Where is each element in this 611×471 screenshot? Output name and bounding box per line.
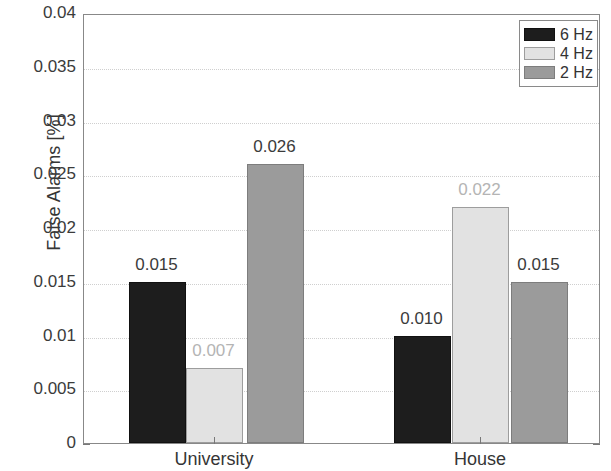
- legend-swatch-icon-1: [524, 47, 555, 60]
- bar-university-4hz[interactable]: [186, 368, 243, 443]
- y-tick-label: 0.025: [3, 164, 76, 184]
- legend-item-1[interactable]: 4 Hz: [524, 44, 593, 63]
- legend-item-2[interactable]: 2 Hz: [524, 63, 593, 82]
- x-tick-mark: [214, 437, 215, 444]
- bar-value-label: 0.010: [385, 309, 458, 329]
- legend-swatch-icon-0: [524, 28, 555, 41]
- y-tick-label: 0.04: [3, 3, 76, 23]
- bar-university-6hz[interactable]: [129, 282, 186, 443]
- bar-value-label: 0.015: [120, 255, 193, 275]
- y-tick-label: 0.03: [3, 111, 76, 131]
- y-tick-label: 0.005: [3, 379, 76, 399]
- bar-value-label: 0.026: [238, 137, 311, 157]
- chart-legend[interactable]: 6 Hz 4 Hz 2 Hz: [519, 20, 598, 87]
- legend-label-2: 2 Hz: [560, 64, 593, 82]
- y-tick-label: 0.02: [3, 218, 76, 238]
- legend-item-0[interactable]: 6 Hz: [524, 25, 593, 44]
- bar-value-label: 0.007: [177, 341, 250, 361]
- bar-house-4hz[interactable]: [452, 207, 509, 444]
- gridline: [84, 230, 599, 231]
- gridline: [84, 123, 599, 124]
- legend-label-1: 4 Hz: [560, 45, 593, 63]
- bar-house-2hz[interactable]: [511, 282, 568, 443]
- y-tick-label: 0.01: [3, 326, 76, 346]
- bar-house-6hz[interactable]: [394, 336, 451, 444]
- bar-value-label: 0.022: [443, 180, 516, 200]
- legend-swatch-icon-2: [524, 66, 555, 79]
- y-tick-mark: [83, 444, 90, 445]
- bar-value-label: 0.015: [502, 255, 575, 275]
- y-tick-label: 0.015: [3, 272, 76, 292]
- legend-label-0: 6 Hz: [560, 26, 593, 44]
- bar-chart-figure: False Alarms [%] 00.0050.010.0150.020.02…: [0, 0, 611, 471]
- y-tick-label: 0.035: [3, 57, 76, 77]
- x-category-label-university: University: [134, 449, 294, 470]
- x-tick-mark: [480, 437, 481, 444]
- y-tick-label: 0: [3, 433, 76, 453]
- gridline: [84, 176, 599, 177]
- bar-university-2hz[interactable]: [247, 164, 304, 444]
- y-tick-mark-right: [593, 444, 600, 445]
- x-category-label-house: House: [400, 449, 560, 470]
